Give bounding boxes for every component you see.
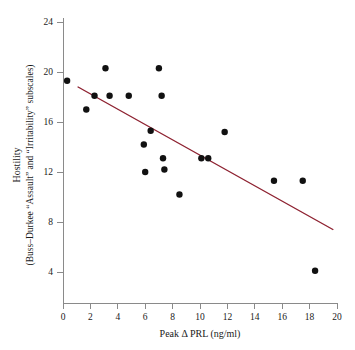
x-tick-label-12: 12 [223, 312, 233, 322]
y-axis-title-line1: Hostility [11, 147, 22, 182]
data-point [161, 166, 167, 172]
y-tick-label-20: 20 [44, 67, 54, 77]
chart-canvas: 4812162024 02468101214161820 Peak Δ PRL … [0, 0, 355, 350]
x-axis-ticks: 02468101214161820 [61, 303, 342, 322]
x-tick-label-18: 18 [305, 312, 315, 322]
data-points-group [64, 65, 318, 274]
data-point [106, 93, 112, 99]
data-point [176, 191, 182, 197]
y-axis-ticks: 4812162024 [44, 17, 64, 277]
x-tick-label-2: 2 [88, 312, 93, 322]
data-point [147, 128, 153, 134]
scatter-plot-figure: 4812162024 02468101214161820 Peak Δ PRL … [0, 0, 355, 350]
data-point [300, 178, 306, 184]
data-point [64, 78, 70, 84]
data-point [205, 155, 211, 161]
data-point [102, 65, 108, 71]
x-tick-label-6: 6 [143, 312, 148, 322]
y-axis-title-line2: (Buss–Durkee “Assault” and “Irritability… [25, 64, 36, 265]
data-point [221, 129, 227, 135]
x-tick-label-16: 16 [277, 312, 287, 322]
x-tick-label-4: 4 [115, 312, 120, 322]
y-tick-label-4: 4 [48, 267, 53, 277]
data-point [156, 65, 162, 71]
data-point [126, 93, 132, 99]
x-tick-label-10: 10 [195, 312, 205, 322]
data-point [141, 141, 147, 147]
x-tick-label-20: 20 [332, 312, 342, 322]
data-point [198, 155, 204, 161]
data-point [160, 155, 166, 161]
data-point [83, 106, 89, 112]
data-point [158, 93, 164, 99]
y-tick-label-24: 24 [44, 17, 54, 27]
x-tick-label-14: 14 [250, 312, 260, 322]
data-point [271, 178, 277, 184]
data-point [91, 93, 97, 99]
x-tick-label-8: 8 [170, 312, 175, 322]
data-point [312, 268, 318, 274]
x-axis-title: Peak Δ PRL (ng/ml) [160, 328, 241, 340]
y-tick-label-8: 8 [48, 217, 53, 227]
y-tick-label-12: 12 [44, 167, 54, 177]
y-tick-label-16: 16 [44, 117, 54, 127]
x-tick-label-0: 0 [61, 312, 66, 322]
data-point [142, 169, 148, 175]
